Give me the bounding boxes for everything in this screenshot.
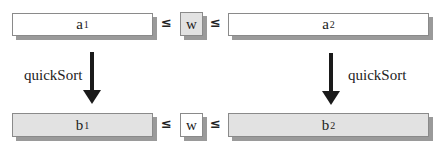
box-b2-sub: 2 — [330, 120, 335, 131]
box-b1-sub: 1 — [84, 120, 89, 131]
box-b1-base: b — [76, 117, 84, 134]
box-a2: a2 — [228, 13, 429, 36]
quicksort-label-left: quickSort — [24, 67, 82, 84]
box-b2-base: b — [322, 117, 330, 134]
arrow-down-right-icon — [329, 53, 333, 95]
pivot-w-top: w — [180, 12, 203, 36]
box-a2-base: a — [322, 16, 329, 33]
pivot-w-bottom-label: w — [186, 117, 197, 134]
pivot-w-bottom: w — [180, 113, 203, 137]
box-a1-base: a — [76, 16, 83, 33]
box-b1: b1 — [12, 113, 153, 137]
leq-symbol-bottom-right: ≤ — [210, 116, 221, 131]
leq-symbol-top-left: ≤ — [161, 15, 172, 30]
arrow-down-left-icon — [90, 52, 94, 94]
box-a2-sub: 2 — [330, 19, 335, 30]
leq-symbol-top-right: ≤ — [210, 15, 221, 30]
box-a1: a1 — [12, 13, 153, 36]
pivot-w-top-label: w — [186, 16, 197, 33]
box-a1-sub: 1 — [84, 19, 89, 30]
box-b2: b2 — [228, 113, 429, 137]
leq-symbol-bottom-left: ≤ — [161, 116, 172, 131]
quicksort-label-right: quickSort — [348, 67, 406, 84]
